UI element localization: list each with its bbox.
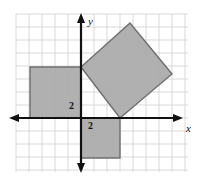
plot-canvas (0, 0, 205, 183)
y-axis-tick-label-2: 2 (69, 101, 74, 111)
x-axis-label: x (186, 123, 191, 134)
x-axis-tick-label-2: 2 (88, 121, 93, 131)
y-axis-label: y (88, 16, 93, 27)
coordinate-grid-figure: y x 2 2 (0, 0, 205, 183)
shape-bottom-square (81, 118, 120, 158)
